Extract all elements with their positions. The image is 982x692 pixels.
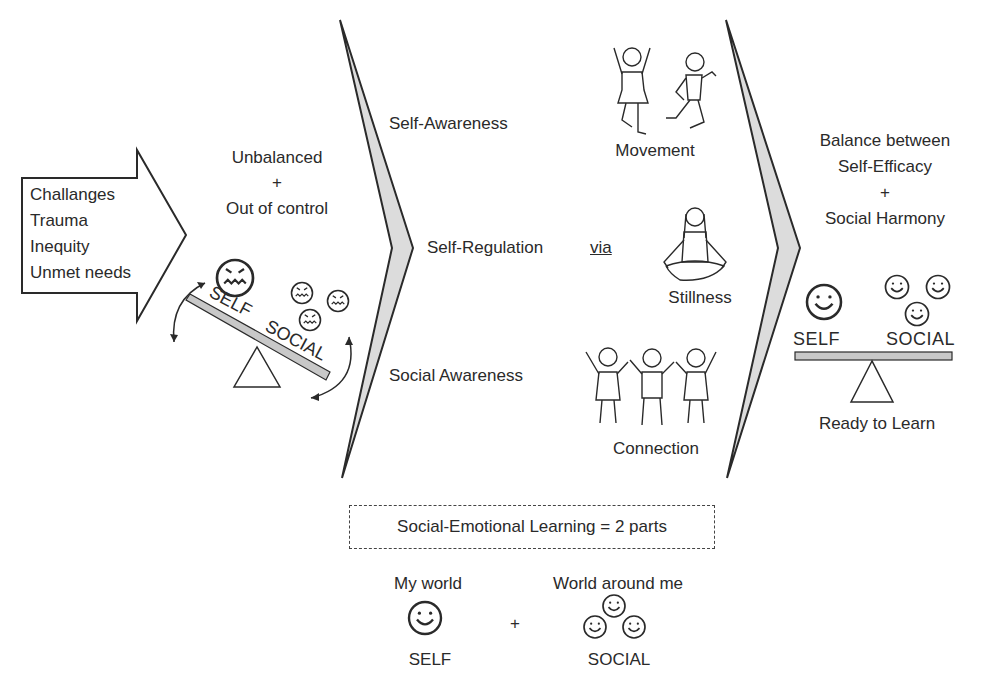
factor-item: Trauma (30, 208, 131, 234)
input-factors-list: Challanges Trauma Inequity Unmet needs (30, 182, 131, 286)
practice-stillness: Stillness (668, 287, 731, 309)
sel-social-label: SOCIAL (588, 649, 650, 671)
chevron-divider-2 (726, 20, 800, 478)
unbalanced-plus: + (272, 172, 282, 194)
movement-illustration (614, 48, 716, 134)
out-of-control-label: Out of control (226, 198, 328, 220)
factor-item: Inequity (30, 234, 131, 260)
practice-connection: Connection (613, 438, 699, 460)
ready-to-learn-label: Ready to Learn (819, 413, 935, 435)
skill-self-awareness: Self-Awareness (389, 113, 508, 135)
skill-self-regulation: Self-Regulation (427, 237, 543, 259)
skill-social-awareness: Social Awareness (389, 365, 523, 387)
balanced-plus: + (880, 182, 890, 204)
unbalanced-seesaw: SELF SOCIAL (170, 260, 353, 401)
balanced-social-label: SOCIAL (886, 328, 955, 350)
sel-definition-title: Social-Emotional Learning = 2 parts (397, 516, 667, 538)
unbalanced-label: Unbalanced (232, 147, 323, 169)
factor-item: Unmet needs (30, 260, 131, 286)
social-harmony-label: Social Harmony (825, 208, 945, 230)
connection-illustration (586, 348, 716, 425)
world-around-me-label: World around me (553, 573, 683, 595)
sel-faces (409, 595, 645, 638)
practice-movement: Movement (615, 140, 694, 162)
via-label: via (590, 237, 612, 259)
balanced-self-label: SELF (793, 328, 840, 350)
sel-plus: + (510, 613, 520, 635)
stillness-illustration (664, 208, 726, 280)
sel-self-label: SELF (409, 649, 452, 671)
balance-between-label: Balance between (820, 130, 950, 152)
self-efficacy-label: Self-Efficacy (838, 156, 932, 178)
factor-item: Challanges (30, 182, 131, 208)
my-world-label: My world (394, 573, 462, 595)
chevron-divider-1 (340, 20, 413, 478)
